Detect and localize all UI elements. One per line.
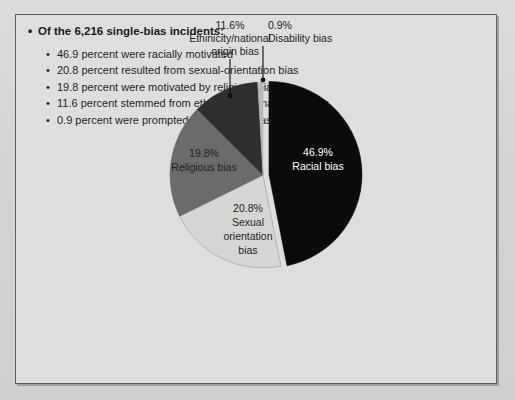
slice-label-racial-name: Racial bias (292, 160, 343, 172)
slice-label-sexual-line3: bias (238, 244, 257, 256)
list-item-label: 19.8 percent were motivated by religious… (57, 81, 278, 93)
page-title: Of the 6,216 single-bias incidents: (38, 25, 224, 37)
list-item: •19.8 percent were motivated by religiou… (46, 79, 478, 95)
bullet-glyph-icon: • (46, 95, 57, 111)
bullet-glyph-icon: • (46, 112, 57, 128)
slice-label-sexual-percent: 20.8% (233, 202, 263, 214)
pie-slice-sexual-orientation-bias (180, 175, 281, 268)
slice-label-religious-percent: 19.8% (189, 147, 219, 159)
heading-bullet-item: •Of the 6,216 single-bias incidents: (28, 24, 478, 39)
slice-label-racial-percent: 46.9% (303, 146, 333, 158)
slice-label-religious-name: Religious bias (171, 161, 236, 173)
list-item: •11.6 percent stemmed from ethnicity/nat… (46, 95, 478, 111)
list-item: •46.9 percent were racially motivated (46, 46, 478, 62)
list-item-label: 0.9 percent were prompted by disability … (57, 114, 272, 126)
bullet-glyph-icon: • (46, 62, 57, 78)
bullet-list-block: •Of the 6,216 single-bias incidents: •46… (28, 24, 478, 128)
figure-panel: •Of the 6,216 single-bias incidents: •46… (15, 14, 497, 384)
list-item: •20.8 percent resulted from sexual-orien… (46, 62, 478, 78)
bullet-glyph-icon: • (46, 46, 57, 62)
slice-label-sexual-line1: Sexual (232, 216, 264, 228)
page-canvas: •Of the 6,216 single-bias incidents: •46… (0, 0, 515, 400)
list-item: •0.9 percent were prompted by disability… (46, 112, 478, 128)
list-item-label: 20.8 percent resulted from sexual-orient… (57, 64, 299, 76)
slice-label-sexual-line2: orientation (223, 230, 272, 242)
list-item-label: 11.6 percent stemmed from ethnicity/nati… (57, 97, 329, 109)
list-item-label: 46.9 percent were racially motivated (57, 48, 233, 60)
sub-bullet-list: •46.9 percent were racially motivated •2… (28, 46, 478, 128)
bullet-glyph-icon: • (46, 79, 57, 95)
bullet-glyph-icon: • (28, 24, 38, 39)
